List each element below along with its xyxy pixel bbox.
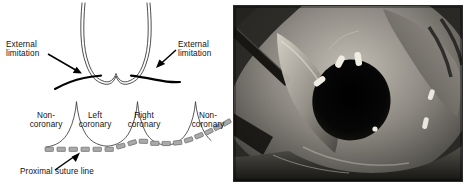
photograph-svg — [233, 5, 463, 182]
schematic-diagram-panel: External limitation External limitation … — [0, 0, 233, 192]
upper-aortic-wall-outline — [81, 3, 151, 84]
arrow-external-limitation-left — [48, 54, 82, 74]
label-external-limitation-left: External limitation — [6, 40, 39, 59]
label-noncoronary-left: Non- coronary — [26, 111, 66, 130]
label-right-coronary: Right coronary — [122, 111, 166, 130]
label-external-limitation-right: External limitation — [178, 40, 211, 59]
label-left-coronary: Left coronary — [73, 111, 117, 130]
figure-container: External limitation External limitation … — [0, 0, 466, 192]
arrow-external-limitation-right — [156, 50, 176, 68]
intraoperative-photograph — [233, 5, 463, 182]
diagram-svg — [0, 0, 233, 192]
label-noncoronary-right: Non- coronary — [188, 111, 228, 130]
label-proximal-suture-line: Proximal suture line — [20, 167, 94, 176]
